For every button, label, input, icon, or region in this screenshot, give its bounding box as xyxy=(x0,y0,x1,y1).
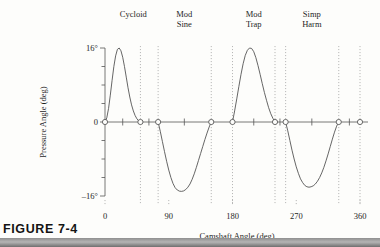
figure-container: CycloidModSineModTrapSimpHarm 0901802703… xyxy=(0,0,380,247)
y-tick-labels-group: –16°016° xyxy=(81,43,98,201)
segment-label-mod-sine: ModSine xyxy=(176,9,193,29)
zero-crossing-marker xyxy=(272,119,277,124)
y-tick-label: 0 xyxy=(94,117,98,127)
segment-label-simp-harm: SimpHarm xyxy=(302,9,322,29)
y-axis-title: Pressure Angle (deg) xyxy=(38,86,48,157)
segment-labels-group: CycloidModSineModTrapSimpHarm xyxy=(120,9,322,29)
zero-crossing-marker xyxy=(357,119,362,124)
zero-crossing-marker xyxy=(209,119,214,124)
zero-crossing-marker xyxy=(102,119,107,124)
zero-crossing-marker xyxy=(156,119,161,124)
zero-crossing-marker xyxy=(336,119,341,124)
figure-caption: FIGURE 7-4 xyxy=(3,222,78,236)
pressure-angle-chart: CycloidModSineModTrapSimpHarm 0901802703… xyxy=(0,0,380,247)
zero-crossing-marker xyxy=(138,119,143,124)
caption-divider-rule xyxy=(0,238,380,247)
segment-label-mod-trap: ModTrap xyxy=(246,9,263,29)
axes-group xyxy=(105,48,368,196)
curve-mod-sine xyxy=(158,122,211,191)
y-tick-label: 16° xyxy=(86,43,98,53)
curve-simp-harm xyxy=(286,122,339,187)
zero-crossing-marker xyxy=(283,119,288,124)
curve-mod-trap xyxy=(233,48,276,122)
zero-crossing-marker xyxy=(230,119,235,124)
gridlines-group xyxy=(140,46,360,204)
curve-cycloid xyxy=(105,48,140,122)
figure-caption-bar: FIGURE 7-4 xyxy=(0,217,380,247)
y-tick-label: –16° xyxy=(81,191,98,201)
segment-label-cycloid: Cycloid xyxy=(120,9,148,19)
